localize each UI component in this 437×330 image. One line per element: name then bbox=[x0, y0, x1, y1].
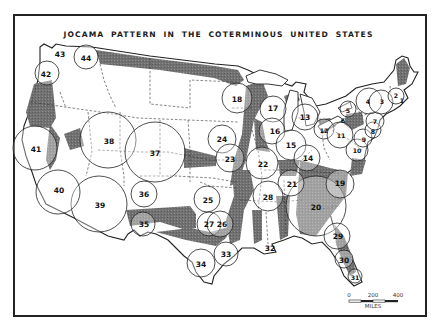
svg-text:11: 11 bbox=[337, 132, 346, 139]
svg-text:22: 22 bbox=[258, 160, 268, 169]
svg-text:2: 2 bbox=[394, 92, 398, 99]
svg-text:42: 42 bbox=[41, 70, 51, 79]
svg-text:28: 28 bbox=[263, 193, 273, 202]
svg-text:400: 400 bbox=[393, 292, 404, 298]
svg-text:6: 6 bbox=[341, 117, 345, 124]
svg-text:200: 200 bbox=[368, 292, 379, 298]
svg-text:40: 40 bbox=[54, 186, 64, 195]
svg-text:37: 37 bbox=[150, 149, 160, 158]
svg-text:30: 30 bbox=[339, 256, 349, 265]
svg-text:35: 35 bbox=[139, 220, 149, 229]
svg-text:24: 24 bbox=[217, 135, 227, 144]
svg-text:44: 44 bbox=[81, 54, 91, 63]
scale-bar: 0 200 400 MILES bbox=[347, 292, 403, 309]
svg-text:26: 26 bbox=[217, 220, 227, 229]
svg-text:33: 33 bbox=[221, 250, 231, 259]
svg-text:20: 20 bbox=[311, 203, 321, 212]
svg-text:1: 1 bbox=[400, 97, 404, 104]
svg-text:4: 4 bbox=[366, 98, 371, 105]
svg-text:36: 36 bbox=[139, 190, 149, 199]
svg-text:41: 41 bbox=[31, 145, 41, 154]
svg-text:29: 29 bbox=[333, 232, 343, 241]
us-map: 1 2 3 4 5 6 7 8 9 10 11 12 13 14 15 16 1… bbox=[0, 0, 437, 330]
svg-text:43: 43 bbox=[55, 50, 65, 59]
svg-text:17: 17 bbox=[268, 104, 278, 113]
svg-text:18: 18 bbox=[232, 95, 242, 104]
svg-text:7: 7 bbox=[373, 118, 377, 125]
svg-text:9: 9 bbox=[362, 136, 366, 143]
svg-text:21: 21 bbox=[287, 180, 297, 189]
svg-text:32: 32 bbox=[265, 244, 275, 253]
svg-text:13: 13 bbox=[300, 113, 310, 122]
svg-text:3: 3 bbox=[380, 98, 384, 105]
svg-text:15: 15 bbox=[286, 141, 296, 150]
svg-text:16: 16 bbox=[270, 127, 280, 136]
svg-text:10: 10 bbox=[353, 147, 362, 154]
svg-text:12: 12 bbox=[320, 127, 329, 134]
svg-text:0: 0 bbox=[347, 292, 351, 298]
svg-text:27: 27 bbox=[204, 220, 214, 229]
svg-text:5: 5 bbox=[346, 107, 350, 114]
svg-text:25: 25 bbox=[203, 196, 213, 205]
svg-text:8: 8 bbox=[371, 128, 375, 135]
svg-text:23: 23 bbox=[225, 155, 235, 164]
svg-text:19: 19 bbox=[335, 179, 345, 188]
svg-text:39: 39 bbox=[95, 201, 105, 210]
svg-text:MILES: MILES bbox=[365, 303, 382, 309]
svg-text:38: 38 bbox=[104, 137, 114, 146]
svg-text:34: 34 bbox=[196, 260, 206, 269]
svg-text:14: 14 bbox=[303, 154, 313, 163]
svg-text:31: 31 bbox=[351, 274, 360, 281]
